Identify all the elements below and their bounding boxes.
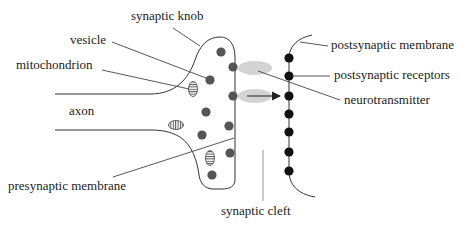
leader-synaptic-knob [173,28,200,46]
label-postsynaptic-receptors: postsynaptic receptors [334,67,450,82]
label-vesicle: vesicle [70,32,106,47]
label-neurotransmitter: neurotransmitter [344,92,430,107]
vesicle-docked [225,148,234,157]
mitochondria-group [169,82,215,166]
vesicles-group [197,47,237,179]
receptor-dot [284,109,293,118]
vesicle [201,107,210,116]
vesicle [197,130,206,139]
receptor-dot [284,147,293,156]
label-synaptic-cleft: synaptic cleft [221,203,291,218]
receptor-dot [284,53,293,62]
leader-postsynaptic-membrane [300,42,328,46]
vesicle-docked [228,62,237,71]
mitochondrion-icon [206,151,215,166]
vesicle-docked [228,91,237,100]
leader-mitochondrion [102,70,189,89]
label-axon: axon [69,103,94,118]
vesicle [207,170,216,179]
leader-vesicle [112,42,206,78]
mitochondrion-icon [169,121,184,130]
receptor-dot [284,91,293,100]
vesicle [205,75,214,84]
vesicle [216,47,225,56]
neurotransmitter-group [238,61,272,103]
vesicle-docked [224,121,233,130]
receptor-dot [284,166,293,175]
label-postsynaptic-membrane: postsynaptic membrane [331,37,454,52]
leader-presynaptic-membrane [113,138,234,177]
receptor-dot [284,127,293,136]
neurotransmitter-blob [238,61,272,75]
label-mitochondrion: mitochondrion [16,57,93,72]
mitochondrion-icon [189,82,198,97]
label-presynaptic-membrane: presynaptic membrane [8,178,126,193]
label-synaptic-knob: synaptic knob [131,8,204,23]
